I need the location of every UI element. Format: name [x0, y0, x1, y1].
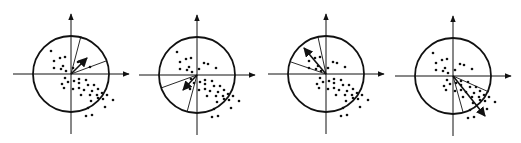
data-point — [78, 87, 81, 90]
data-point — [351, 94, 354, 97]
data-point — [486, 108, 489, 111]
data-point — [316, 83, 319, 86]
data-point — [62, 65, 65, 68]
data-point — [219, 85, 222, 88]
data-point — [473, 92, 476, 95]
data-point — [223, 89, 226, 92]
data-point — [203, 62, 206, 65]
data-point — [89, 94, 92, 97]
data-point — [204, 83, 207, 86]
data-point — [209, 90, 212, 93]
panel-2 — [139, 15, 255, 135]
data-point — [446, 58, 449, 61]
scatter-circle-diagram — [0, 0, 521, 143]
data-point — [346, 90, 349, 93]
data-point — [64, 56, 67, 59]
data-point — [348, 84, 351, 87]
data-point — [460, 89, 463, 92]
data-point — [473, 116, 476, 119]
data-point — [443, 85, 446, 88]
data-point — [484, 100, 487, 103]
data-point — [333, 78, 336, 81]
sector-ray — [71, 61, 106, 74]
data-point — [367, 99, 370, 102]
data-point — [73, 80, 76, 83]
panel-3 — [268, 14, 384, 134]
data-point — [346, 114, 349, 117]
data-points — [176, 51, 241, 119]
data-point — [232, 95, 235, 98]
data-point — [435, 69, 438, 72]
data-point — [50, 50, 53, 53]
data-point — [215, 95, 218, 98]
data-point — [238, 100, 241, 103]
data-point — [190, 57, 193, 60]
data-point — [199, 81, 202, 84]
data-point — [336, 62, 339, 65]
data-point — [186, 69, 189, 72]
data-point — [64, 77, 67, 80]
data-point — [78, 78, 81, 81]
data-point — [332, 61, 335, 64]
data-point — [352, 88, 355, 91]
data-point — [185, 58, 188, 61]
data-point — [215, 67, 218, 70]
data-point — [454, 90, 457, 93]
data-point — [211, 80, 214, 83]
data-point — [102, 98, 105, 101]
data-point — [342, 84, 345, 87]
data-point — [356, 92, 359, 95]
data-point — [449, 83, 452, 86]
data-point — [488, 96, 491, 99]
data-point — [444, 67, 447, 70]
data-point — [479, 99, 482, 102]
data-point — [340, 115, 343, 118]
data-point — [179, 68, 182, 71]
data-point — [91, 90, 94, 93]
data-point — [188, 66, 191, 69]
data-point — [63, 87, 66, 90]
data-point — [104, 106, 107, 109]
data-point — [53, 60, 56, 63]
data-point — [442, 70, 445, 73]
data-point — [441, 59, 444, 62]
data-point — [340, 79, 343, 82]
data-point — [85, 79, 88, 82]
data-point — [198, 68, 201, 71]
data-point — [72, 88, 75, 91]
data-point — [344, 66, 347, 69]
data-point — [345, 100, 348, 103]
data-point — [327, 67, 330, 70]
data-points — [50, 50, 115, 118]
data-point — [479, 90, 482, 93]
data-point — [319, 77, 322, 80]
data-point — [93, 84, 96, 87]
data-point — [112, 99, 115, 102]
data-point — [483, 94, 486, 97]
data-point — [494, 101, 497, 104]
panel-1 — [13, 14, 129, 134]
data-point — [85, 115, 88, 118]
data-point — [445, 89, 448, 92]
data-point — [61, 83, 64, 86]
data-point — [328, 80, 331, 83]
data-point — [204, 79, 207, 82]
panel-4 — [395, 16, 511, 136]
data-point — [432, 52, 435, 55]
data-point — [204, 88, 207, 91]
data-point — [459, 63, 462, 66]
data-point — [359, 106, 362, 109]
data-point — [53, 67, 56, 70]
data-point — [59, 57, 62, 60]
data-point — [80, 94, 83, 97]
data-point — [469, 109, 472, 112]
data-point — [223, 98, 226, 101]
data-point — [319, 56, 322, 59]
data-point — [478, 96, 481, 99]
data-point — [96, 94, 99, 97]
data-point — [344, 94, 347, 97]
data-point — [67, 81, 70, 84]
data-point — [101, 92, 104, 95]
data-point — [179, 61, 182, 64]
data-point — [176, 51, 179, 54]
